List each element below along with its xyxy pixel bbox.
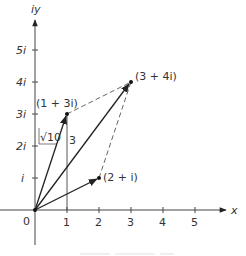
- y-tick-label: 3i: [16, 108, 26, 121]
- magnitude-annotation: √10: [40, 131, 61, 144]
- x-tick-label: 2: [95, 216, 102, 229]
- height-annotation: 3: [69, 134, 76, 147]
- y-axis-label: iy: [31, 3, 41, 16]
- point-label-2-plus-i: (2 + i): [103, 171, 138, 184]
- point-3-plus-4i: [129, 80, 133, 84]
- origin-label: 0: [23, 215, 30, 228]
- y-tick-label: 4i: [16, 76, 26, 89]
- faint-caption: [80, 253, 110, 255]
- faint-caption: [115, 253, 155, 255]
- point-2-plus-i: [97, 176, 101, 180]
- point-1-plus-3i: [65, 112, 69, 116]
- x-tick-label: 3: [127, 216, 134, 229]
- y-tick-label: 2i: [16, 140, 26, 153]
- x-tick-label: 1: [63, 216, 70, 229]
- point-label-3-plus-4i: (3 + 4i): [135, 70, 177, 83]
- faint-caption: [160, 253, 174, 255]
- y-tick-label: i: [21, 172, 24, 185]
- dashed-side-right: [99, 82, 131, 178]
- complex-plane-diagram: x iy 0 1 2 3 4 5 i 2i 3i 4i 5i (1 + 3i) …: [0, 0, 246, 256]
- x-tick-label: 5: [191, 216, 198, 229]
- origin-point: [33, 208, 37, 212]
- x-tick-label: 4: [159, 216, 166, 229]
- y-tick-label: 5i: [16, 44, 26, 57]
- x-axis-label: x: [230, 204, 238, 217]
- point-label-1-plus-3i: (1 + 3i): [36, 97, 78, 110]
